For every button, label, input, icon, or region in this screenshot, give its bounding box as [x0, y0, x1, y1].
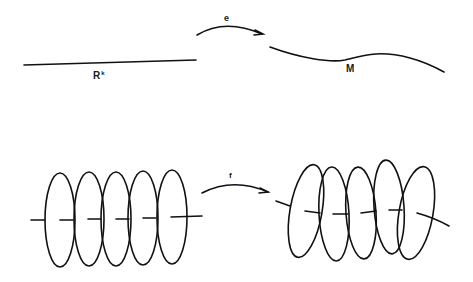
left-tubular-neighborhood	[31, 170, 202, 267]
rk-label: Rk	[93, 70, 105, 81]
map-f-arrowhead	[259, 188, 268, 193]
diagram-canvas	[0, 0, 473, 282]
right-tubular-neighborhood	[276, 159, 449, 262]
rk-superscript: k	[101, 70, 104, 76]
map-e-arrowhead	[254, 30, 263, 35]
rk-line	[24, 60, 196, 65]
f-label: f	[229, 172, 232, 180]
m-label: M	[346, 64, 354, 74]
map-f-arrow	[202, 185, 268, 193]
manifold-m-curve	[270, 47, 444, 72]
map-e-arrow	[197, 26, 262, 35]
e-label: e	[224, 14, 229, 23]
